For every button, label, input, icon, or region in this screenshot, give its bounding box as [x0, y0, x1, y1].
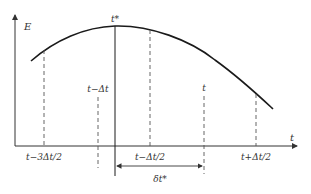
y-axis-label: E [23, 21, 32, 32]
marker-label: t* [111, 14, 120, 24]
marker-label: t−Δt/2 [135, 152, 165, 162]
marker-label: t−Δt [87, 84, 109, 94]
x-axis-label: t [290, 132, 295, 143]
interval-label: δt* [153, 174, 167, 184]
marker-label: t−3Δt/2 [26, 152, 62, 162]
marker-t-minus-dt: t−Δt [87, 84, 109, 168]
marker-label: t+Δt/2 [241, 152, 271, 162]
energy-time-diagram: E t t−3Δt/2 t−Δt t* t−Δt/2 [0, 0, 311, 194]
interval-delta-t-star: δt* [117, 166, 202, 184]
marker-t-minus-dt-over-2: t−Δt/2 [135, 30, 165, 162]
energy-curve [31, 26, 273, 109]
marker-label: t [202, 83, 206, 93]
marker-t-minus-3dt-over-2: t−3Δt/2 [26, 50, 62, 162]
marker-t: t [202, 83, 206, 174]
marker-t-star: t* [111, 14, 120, 176]
x-axis: t [15, 132, 297, 146]
y-axis: E [15, 15, 32, 146]
